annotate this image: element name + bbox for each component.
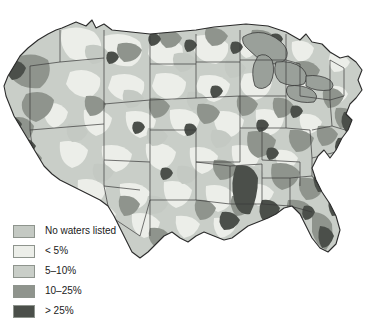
legend-swatch-gt-25 xyxy=(13,305,35,318)
legend-label-5-to-10: 5–10% xyxy=(45,265,76,277)
legend-item-5-to-10: 5–10% xyxy=(13,261,143,281)
legend-swatch-5-to-10 xyxy=(13,265,35,278)
legend-item-gt-25: > 25% xyxy=(13,301,143,321)
figure-container: No waters listed < 5% 5–10% 10–25% > 25% xyxy=(0,0,370,335)
map-legend: No waters listed < 5% 5–10% 10–25% > 25% xyxy=(13,221,143,321)
legend-label-no-waters-listed: No waters listed xyxy=(45,225,116,237)
legend-label-10-to-25: 10–25% xyxy=(45,285,82,297)
legend-swatch-no-waters-listed xyxy=(13,225,35,238)
legend-swatch-10-to-25 xyxy=(13,285,35,298)
legend-label-lt-5: < 5% xyxy=(45,245,68,257)
legend-swatch-lt-5 xyxy=(13,245,35,258)
legend-item-10-to-25: 10–25% xyxy=(13,281,143,301)
legend-item-lt-5: < 5% xyxy=(13,241,143,261)
legend-item-no-waters-listed: No waters listed xyxy=(13,221,143,241)
legend-label-gt-25: > 25% xyxy=(45,305,74,317)
